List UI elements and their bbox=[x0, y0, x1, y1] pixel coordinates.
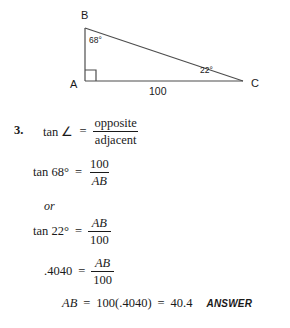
tan68-lhs: tan 68° bbox=[33, 165, 69, 180]
final-equals-1: = bbox=[77, 296, 96, 311]
vertex-label-c: C bbox=[251, 78, 259, 89]
equation-decimal: .4040 = AB 100 bbox=[44, 256, 114, 287]
angle-label-b: 68° bbox=[89, 36, 102, 45]
equation-definition: tan ∠ = opposite adjacent bbox=[43, 116, 139, 147]
angle-label-c: 22° bbox=[200, 66, 213, 75]
definition-fraction: opposite adjacent bbox=[92, 116, 138, 147]
solution-steps: 3. tan ∠ = opposite adjacent tan 68° = 1… bbox=[0, 110, 290, 328]
equation-final: AB = 100(.4040) = 40.4 ANSWER bbox=[62, 296, 252, 311]
tan22-equals: = bbox=[69, 224, 88, 239]
tan22-denominator: 100 bbox=[88, 231, 111, 247]
vertex-label-b: B bbox=[81, 10, 88, 21]
decimal-equals: = bbox=[72, 264, 91, 279]
tan68-equals: = bbox=[69, 165, 88, 180]
equation-tan68: tan 68° = 100 AB bbox=[33, 157, 111, 188]
tan22-numerator: AB bbox=[90, 216, 109, 231]
definition-denominator: adjacent bbox=[93, 131, 139, 147]
right-angle-marker bbox=[85, 70, 96, 81]
tan22-lhs: tan 22° bbox=[33, 224, 69, 239]
triangle-figure: B A C 68° 22° 100 bbox=[0, 0, 290, 110]
final-value: 40.4 bbox=[171, 296, 193, 311]
definition-equals: = bbox=[73, 124, 92, 139]
connector-or: or bbox=[44, 199, 55, 214]
tan22-fraction: AB 100 bbox=[88, 216, 111, 247]
tan68-denominator: AB bbox=[90, 172, 109, 188]
decimal-lhs: .4040 bbox=[44, 264, 72, 279]
segment-bc bbox=[85, 28, 243, 81]
definition-numerator: opposite bbox=[92, 116, 138, 131]
side-label-ac: 100 bbox=[149, 86, 167, 97]
final-lhs: AB bbox=[62, 296, 77, 311]
decimal-numerator: AB bbox=[93, 256, 112, 271]
definition-lhs: tan ∠ bbox=[43, 124, 73, 140]
decimal-denominator: 100 bbox=[91, 271, 114, 287]
final-expression: 100(.4040) bbox=[96, 296, 151, 311]
answer-tag: ANSWER bbox=[192, 298, 252, 309]
triangle-drawing bbox=[0, 0, 290, 110]
tan68-numerator: 100 bbox=[88, 157, 111, 172]
vertex-label-a: A bbox=[70, 79, 77, 90]
tan68-fraction: 100 AB bbox=[88, 157, 111, 188]
item-number: 3. bbox=[14, 123, 23, 138]
decimal-fraction: AB 100 bbox=[91, 256, 114, 287]
final-equals-2: = bbox=[152, 296, 171, 311]
equation-tan22: tan 22° = AB 100 bbox=[33, 216, 111, 247]
